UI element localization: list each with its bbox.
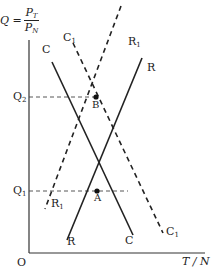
q2-tick-label: Q2 xyxy=(13,91,27,104)
y-axis-numerator: PT xyxy=(24,6,38,21)
y-axis-lhs: Q = xyxy=(0,14,22,27)
y-axis-label: Q = PT PN xyxy=(0,6,39,35)
curve-c1-label-top: C1 xyxy=(63,32,76,45)
curve-c xyxy=(52,62,133,235)
curve-r-label-bottom: R xyxy=(67,236,75,247)
curve-r1-label-bottom: R1 xyxy=(51,198,64,211)
point-b-label: B xyxy=(92,100,99,110)
x-axis-label: T / N xyxy=(182,256,210,267)
point-a-label: A xyxy=(94,193,101,203)
curve-r1-label-top: R1 xyxy=(128,36,141,49)
q1-tick-label: Q1 xyxy=(13,185,27,198)
diagram-canvas xyxy=(0,0,218,276)
origin-label: O xyxy=(17,257,26,268)
y-axis-denominator: PN xyxy=(24,21,40,35)
curve-r xyxy=(67,58,142,240)
curve-r1 xyxy=(45,6,121,209)
curve-c1-label-bottom: C1 xyxy=(166,226,179,239)
trade-diagram: Q = PT PN Q2 Q1 O T / N C C R R C1 C1 R1… xyxy=(0,0,218,276)
curve-c-label-bottom: C xyxy=(125,235,133,246)
curve-c-label-top: C xyxy=(42,44,50,55)
curve-r-label-top: R xyxy=(147,62,155,73)
